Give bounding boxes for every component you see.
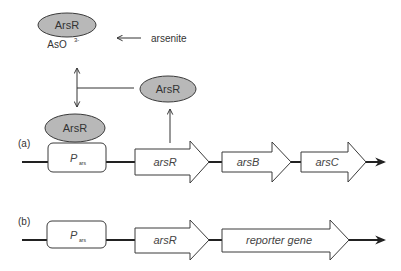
arsr-label-bound: ArsR bbox=[63, 122, 88, 134]
gene-label-arsr-b: arsR bbox=[153, 234, 176, 246]
arsenite-label: arsenite bbox=[151, 33, 187, 44]
gene-label-reporter: reporter gene bbox=[246, 234, 312, 246]
arsr-label-free: ArsR bbox=[156, 83, 181, 95]
promoter-label-b: P bbox=[70, 229, 78, 241]
panel-a: (a) P ars arsR arsB arsC bbox=[18, 138, 384, 183]
panel-b: (b) P ars arsR reporter gene bbox=[18, 216, 384, 260]
gene-label-arsc: arsC bbox=[315, 156, 338, 168]
aso-label: AsO bbox=[47, 39, 67, 50]
promoter-sub-b: ars bbox=[79, 237, 86, 243]
aso-superscript: 3- bbox=[74, 37, 79, 43]
panel-b-label: (b) bbox=[18, 216, 30, 227]
arsr-arsenite-complex: ArsR AsO 3- bbox=[38, 13, 96, 50]
gene-label-arsr-a: arsR bbox=[153, 156, 176, 168]
promoter-label-a: P bbox=[70, 152, 78, 164]
gene-label-arsb: arsB bbox=[237, 156, 260, 168]
arsr-label-top: ArsR bbox=[55, 19, 80, 31]
promoter-sub-a: ars bbox=[79, 160, 86, 166]
panel-a-label: (a) bbox=[18, 138, 30, 149]
ars-operon-diagram: ArsR AsO 3- arsenite ArsR ArsR (a) P ars… bbox=[0, 0, 401, 271]
